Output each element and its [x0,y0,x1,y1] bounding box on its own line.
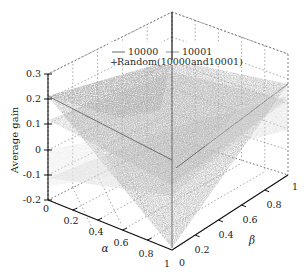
x-tick-0: 0 [43,203,49,214]
legend: 10000 10001 + Random(10000and10001) [108,42,243,67]
z-axis-title: Average gain [9,106,20,174]
x-tick-5: 1 [164,258,170,269]
z-tick-labels: 0.3 0.2 0.1 0 -0.1 -0.2 [23,68,41,205]
x-axis-title: α [101,242,108,254]
x-tick-4: 0.8 [138,248,153,259]
x-tick-2: 0.4 [88,226,103,237]
y-tick-0: 0 [179,257,185,268]
legend-item-random[interactable]: + Random(10000and10001) [110,56,243,67]
y-tick-2: 0.4 [218,229,233,240]
x-tick-3: 0.6 [113,237,128,248]
x-axis-ticks [73,208,152,240]
surface-plot-figure: 0.3 0.2 0.1 0 -0.1 -0.2 0 0.2 0.4 0.6 0.… [0,0,307,277]
z-tick-3: 0 [35,144,41,155]
chart-canvas: 0.3 0.2 0.1 0 -0.1 -0.2 0 0.2 0.4 0.6 0.… [0,0,307,277]
z-tick-2: 0.1 [26,118,41,129]
x-tick-1: 0.2 [63,215,78,226]
z-tick-4: -0.1 [23,169,41,180]
y-axis-title: β [248,234,255,246]
z-tick-0: 0.3 [26,68,41,79]
y-tick-5: 1 [292,181,298,192]
y-tick-3: 0.6 [242,214,257,225]
y-tick-4: 0.8 [266,199,281,210]
legend-label-random: Random(10000and10001) [117,56,243,67]
z-tick-5: -0.2 [23,194,41,205]
z-tick-1: 0.2 [26,93,41,104]
y-tick-1: 0.2 [194,244,209,255]
